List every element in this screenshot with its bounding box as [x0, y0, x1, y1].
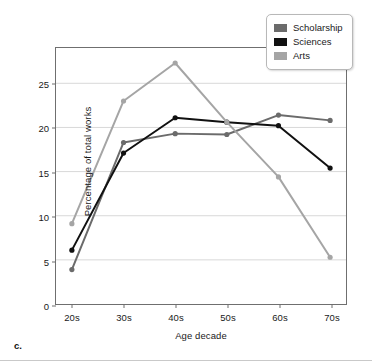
y-tick-label: 5	[44, 256, 49, 267]
y-tick-label: 10	[38, 212, 49, 223]
y-tick-mark	[52, 128, 56, 129]
x-tick-mark	[72, 304, 73, 308]
data-point	[276, 113, 281, 118]
bottom-divider	[0, 360, 372, 361]
data-point	[224, 120, 229, 125]
x-tick-label: 30s	[116, 312, 131, 323]
plot-area: 0510152025 20s30s40s50s60s70s Percentage…	[55, 47, 347, 305]
x-tick-label: 20s	[64, 312, 79, 323]
data-point	[328, 165, 333, 170]
x-axis-title: Age decade	[56, 330, 346, 341]
legend-label: Sciences	[293, 37, 332, 47]
legend-swatch-icon	[274, 38, 287, 46]
legend-swatch-icon	[274, 52, 287, 60]
figure-caption: c.	[14, 340, 22, 351]
data-point	[328, 255, 333, 260]
data-point	[276, 123, 281, 128]
y-tick-mark	[52, 306, 56, 307]
y-tick-mark	[52, 217, 56, 218]
x-tick-mark	[228, 304, 229, 308]
data-point	[173, 115, 178, 120]
data-point	[121, 98, 126, 103]
series-line-sciences	[72, 118, 330, 250]
y-axis-title: Percentage of total works	[82, 47, 93, 277]
figure-panel: 0510152025 20s30s40s50s60s70s Percentage…	[0, 0, 372, 364]
data-point	[224, 132, 229, 137]
legend-swatch-icon	[274, 24, 287, 32]
x-tick-label: 60s	[272, 312, 287, 323]
data-point	[276, 174, 281, 179]
x-tick-label: 50s	[220, 312, 235, 323]
legend-item-sciences[interactable]: Sciences	[274, 35, 343, 49]
y-tick-label: 0	[44, 301, 49, 312]
data-point	[69, 248, 74, 253]
x-tick-mark	[280, 304, 281, 308]
data-point	[121, 150, 126, 155]
legend-item-scholarship[interactable]: Scholarship	[274, 21, 343, 35]
y-tick-mark	[52, 261, 56, 262]
legend-item-arts[interactable]: Arts	[274, 49, 343, 63]
legend-label: Arts	[293, 51, 310, 61]
x-tick-label: 70s	[324, 312, 339, 323]
y-tick-mark	[52, 172, 56, 173]
y-tick-mark	[52, 83, 56, 84]
series-line-arts	[72, 63, 330, 257]
x-tick-mark	[176, 304, 177, 308]
data-series-layer	[56, 48, 346, 304]
series-line-scholarship	[72, 115, 330, 269]
data-point	[69, 267, 74, 272]
x-tick-label: 40s	[168, 312, 183, 323]
data-point	[173, 60, 178, 65]
data-point	[173, 131, 178, 136]
y-tick-label: 25	[38, 78, 49, 89]
legend-label: Scholarship	[293, 23, 343, 33]
data-point	[121, 140, 126, 145]
y-tick-label: 20	[38, 123, 49, 134]
data-point	[328, 118, 333, 123]
data-point	[69, 221, 74, 226]
x-tick-mark	[332, 304, 333, 308]
y-tick-label: 15	[38, 167, 49, 178]
x-tick-mark	[124, 304, 125, 308]
chart-legend: ScholarshipSciencesArts	[266, 14, 353, 70]
